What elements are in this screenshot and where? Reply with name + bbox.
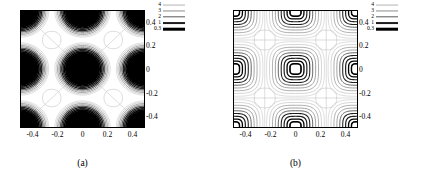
contour-canvas-b [234,11,357,127]
x-tick-label: 0.4 [128,130,137,139]
legend-entry: 3 [150,8,196,13]
legend-entry: 2 [150,14,196,19]
panel-a-caption: (a) [0,158,165,168]
x-tick-label: 0.2 [103,130,112,139]
legend-swatch [163,16,185,17]
x-tick-label: 0 [294,130,298,139]
y-tick-label: -0.2 [146,88,158,97]
legend-swatch [163,22,185,24]
legend-swatch [163,4,185,5]
legend-swatch [163,10,185,11]
x-tick-label: -0.2 [265,130,277,139]
figure-container: -0.4-0.200.20.4 -0.4-0.200.20.4 43210.3 … [0,0,425,183]
legend-swatch [163,28,185,31]
x-axis-labels-a: -0.4-0.200.20.4 [20,130,145,142]
y-tick-label: -0.4 [146,112,158,121]
x-tick-label: -0.4 [27,130,39,139]
y-tick-label: -0.4 [359,112,371,121]
legend-entry: 0.3 [150,27,196,32]
panel-a: -0.4-0.200.20.4 -0.4-0.200.20.4 43210.3 … [0,0,212,183]
legend-b: 43210.3 [363,2,409,36]
y-tick-label: 0 [359,65,363,74]
contour-plot-a [20,10,145,128]
legend-swatch [376,10,398,11]
contour-plot-b [233,10,358,128]
x-tick-label: 0.2 [316,130,325,139]
y-tick-label: -0.2 [359,88,371,97]
legend-entry: 4 [150,2,196,7]
panel-b-caption: (b) [213,158,378,168]
legend-swatch [376,28,398,31]
legend-a: 43210.3 [150,2,196,36]
x-tick-label: -0.4 [240,130,252,139]
y-tick-label: 0 [146,65,150,74]
legend-entry: 4 [363,2,409,7]
panel-b: -0.4-0.200.20.4 -0.4-0.200.20.4 43210.3 … [213,0,425,183]
x-tick-label: 0 [81,130,85,139]
legend-entry: 3 [363,8,409,13]
legend-label: 0.3 [150,27,161,33]
legend-entry: 2 [363,14,409,19]
legend-swatch [376,4,398,5]
legend-label: 0.3 [363,27,374,33]
y-tick-label: 0.2 [146,41,155,50]
contour-canvas-a [21,11,144,127]
x-axis-labels-b: -0.4-0.200.20.4 [233,130,358,142]
legend-swatch [376,16,398,17]
x-tick-label: 0.4 [341,130,350,139]
legend-entry: 0.3 [363,27,409,32]
x-tick-label: -0.2 [52,130,64,139]
y-tick-label: 0.2 [359,41,368,50]
legend-swatch [376,22,398,24]
